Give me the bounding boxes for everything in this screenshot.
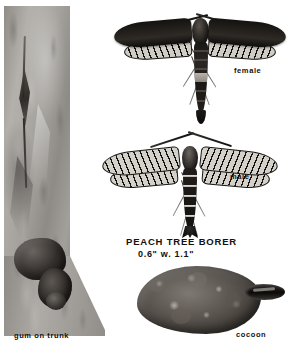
caption-male: male xyxy=(230,172,250,181)
abdomen-segment-5 xyxy=(194,100,208,102)
plate-title: PEACH TREE BORER xyxy=(126,236,237,247)
cocoon-lump-4 xyxy=(171,308,191,324)
cocoon-lump-2 xyxy=(189,272,207,287)
thorax xyxy=(192,18,209,45)
pupal-case xyxy=(245,284,285,300)
illustration-plate: gum on trunk female xyxy=(0,0,299,350)
abdomen-pale-band xyxy=(194,73,208,82)
gum-lump xyxy=(46,292,66,310)
cocoon-lump-1 xyxy=(149,278,165,292)
abdomen-segment-1 xyxy=(194,50,208,52)
abdomen-tip xyxy=(196,110,206,124)
plate-size-line: 0.6" w. 1.1" xyxy=(138,249,194,259)
figure-gum-on-trunk xyxy=(4,6,105,330)
abdomen-ring-3 xyxy=(183,195,197,197)
cocoon-lump-3 xyxy=(225,292,241,308)
abdomen-ring-2 xyxy=(183,185,197,187)
caption-cocoon: cocoon xyxy=(236,330,266,339)
abdomen-segment-4 xyxy=(194,90,208,92)
abdomen-segment-2 xyxy=(194,59,208,61)
antenna-right-icon xyxy=(188,131,232,147)
abdomen xyxy=(183,168,197,230)
caption-female: female xyxy=(234,66,261,75)
abdomen-ring-4 xyxy=(183,205,197,207)
caption-gum-on-trunk: gum on trunk xyxy=(14,331,69,340)
figure-cocoon xyxy=(137,262,282,340)
figure-male-moth xyxy=(100,128,280,240)
abdomen-segment-3 xyxy=(194,68,208,70)
figure-female-moth xyxy=(112,2,288,126)
abdomen-ring-1 xyxy=(183,175,197,177)
abdomen-ring-5 xyxy=(183,215,197,217)
abdomen xyxy=(194,42,208,114)
